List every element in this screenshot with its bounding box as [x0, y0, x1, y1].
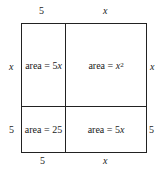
cell-bottom-right: area = 5x: [66, 107, 146, 152]
cell-top-left-prefix: area = 5: [25, 60, 57, 71]
cell-bottom-left: area = 25: [22, 107, 65, 152]
cell-top-left-var: x: [57, 60, 61, 71]
bottom-label-x: x: [103, 156, 107, 166]
left-label-5: 5: [9, 125, 14, 135]
bottom-label-5: 5: [40, 156, 45, 166]
cell-bottom-left-text: area = 25: [25, 124, 62, 135]
top-label-5: 5: [39, 6, 44, 16]
cell-top-right-prefix: area =: [88, 60, 115, 71]
cell-top-left: area = 5x: [22, 24, 65, 106]
right-label-x: x: [150, 62, 154, 72]
cell-bottom-right-var: x: [120, 124, 124, 135]
right-label-5: 5: [149, 125, 154, 135]
left-label-x: x: [9, 62, 13, 72]
cell-bottom-right-prefix: area = 5: [88, 124, 120, 135]
cell-top-right: area = x2: [66, 24, 146, 106]
top-label-x: x: [103, 6, 107, 16]
